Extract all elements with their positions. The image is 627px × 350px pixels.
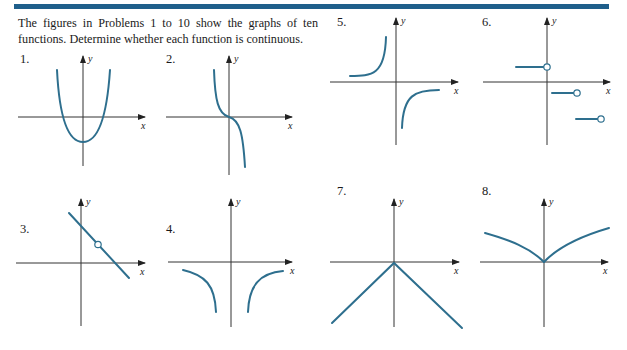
- x-axis-label: x: [453, 265, 459, 276]
- graphs-canvas: y x y x y x y x y x: [0, 0, 627, 350]
- x-axis-label: x: [602, 265, 608, 276]
- open-circle: [574, 90, 580, 96]
- open-circle: [544, 64, 550, 70]
- curve-left: [485, 233, 544, 262]
- open-circle: [598, 116, 604, 122]
- graph-6: y x: [483, 15, 611, 145]
- y-axis-label: y: [551, 15, 557, 26]
- curve-left: [350, 37, 386, 76]
- x-axis-label: x: [289, 265, 295, 276]
- curve-right: [544, 228, 609, 262]
- y-axis-label: y: [233, 53, 239, 64]
- open-circle: [95, 241, 101, 247]
- y-axis-label: y: [235, 196, 241, 207]
- x-axis-label: x: [139, 266, 145, 277]
- graph-7: y x: [330, 196, 462, 328]
- curve-right: [402, 90, 439, 128]
- x-axis-label: x: [605, 85, 611, 96]
- curve-right: [248, 271, 283, 312]
- x-axis-label: x: [287, 120, 293, 131]
- graph-8: y x: [480, 196, 609, 327]
- y-axis-label: y: [87, 53, 93, 64]
- graph-4: y x: [168, 196, 295, 327]
- y-axis-label: y: [85, 196, 91, 207]
- curve-left: [183, 270, 216, 312]
- graph-1: y x: [18, 53, 146, 166]
- y-axis-label: y: [398, 196, 404, 207]
- graph-2: y x: [166, 53, 293, 175]
- y-axis-label: y: [548, 196, 554, 207]
- graph-3: y x: [16, 196, 145, 326]
- y-axis-label: y: [400, 15, 406, 26]
- x-axis-label: x: [140, 120, 146, 131]
- x-axis-label: x: [453, 85, 459, 96]
- curve: [332, 263, 462, 328]
- graph-5: y x: [330, 15, 459, 145]
